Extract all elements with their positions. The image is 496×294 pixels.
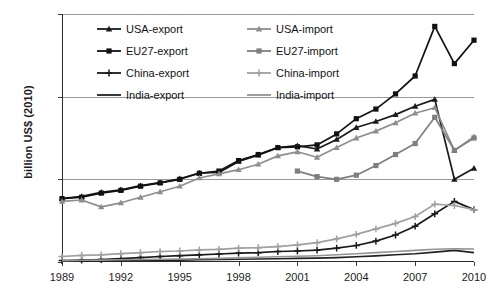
- data-point-marker: [176, 248, 183, 255]
- legend-item-china-export[interactable]: China-export: [96, 67, 246, 79]
- data-point-marker: [354, 116, 359, 121]
- legend-marker-cross-icon: [96, 67, 122, 79]
- legend-marker-line-icon: [96, 89, 122, 101]
- data-point-marker: [353, 242, 360, 249]
- data-point-marker: [334, 177, 339, 182]
- data-point-marker: [117, 250, 124, 257]
- data-point-marker: [314, 174, 319, 179]
- data-point-marker: [177, 177, 182, 182]
- data-point-marker: [314, 239, 321, 246]
- x-tick-mark-2010: [474, 262, 475, 266]
- data-point-marker: [256, 48, 261, 53]
- legend-item-usa-import[interactable]: USA-import: [246, 23, 416, 35]
- legend-label: EU27-export: [126, 45, 188, 57]
- legend-label: EU27-import: [276, 45, 338, 57]
- data-point-marker: [314, 142, 319, 147]
- x-tick-label-1998: 1998: [218, 271, 260, 283]
- data-point-marker: [118, 188, 123, 193]
- data-point-marker: [471, 165, 477, 171]
- legend-label: India-export: [126, 89, 184, 101]
- legend-marker-cross-icon: [246, 67, 272, 79]
- data-point-marker: [334, 131, 339, 136]
- x-tick-mark-2001: [297, 262, 298, 266]
- x-tick-label-2007: 2007: [394, 271, 436, 283]
- series-usa-import: [59, 104, 477, 209]
- series-line: [62, 201, 474, 260]
- x-tick-mark-2007: [415, 262, 416, 266]
- data-point-marker: [106, 48, 111, 53]
- legend-item-india-import[interactable]: India-import: [246, 89, 416, 101]
- data-point-marker: [471, 38, 476, 43]
- x-tick-mark-1998: [239, 262, 240, 266]
- data-point-marker: [106, 70, 113, 77]
- legend-marker-square-icon: [96, 45, 122, 57]
- data-point-marker: [471, 135, 476, 140]
- chart-root: billion US$ (2010) 0306090 1989199219951…: [0, 0, 496, 294]
- data-point-marker: [354, 173, 359, 178]
- chart-legend: USA-exportUSA-importEU27-exportEU27-impo…: [96, 18, 426, 106]
- legend-item-eu27-export[interactable]: EU27-export: [96, 45, 246, 57]
- series-line: [62, 204, 474, 256]
- x-tick-mark-1995: [180, 262, 181, 266]
- legend-label: China-import: [276, 67, 339, 79]
- data-point-marker: [157, 248, 164, 255]
- data-point-marker: [392, 232, 399, 239]
- legend-item-eu27-import[interactable]: EU27-import: [246, 45, 416, 57]
- legend-label: USA-import: [276, 23, 333, 35]
- x-tick-label-2010: 2010: [453, 271, 495, 283]
- data-point-marker: [373, 238, 380, 245]
- x-tick-mark-2004: [356, 262, 357, 266]
- x-tick-label-2001: 2001: [276, 271, 318, 283]
- data-point-marker: [333, 245, 340, 252]
- data-point-marker: [452, 61, 457, 66]
- legend-marker-square-icon: [246, 45, 272, 57]
- data-point-marker: [432, 96, 438, 102]
- data-point-marker: [432, 115, 437, 120]
- data-point-marker: [471, 206, 478, 213]
- data-point-marker: [392, 220, 399, 227]
- data-point-marker: [196, 246, 203, 253]
- data-point-marker: [256, 70, 263, 77]
- x-tick-mark-1992: [121, 262, 122, 266]
- data-point-marker: [333, 235, 340, 242]
- data-point-marker: [255, 244, 262, 251]
- data-point-marker: [78, 252, 85, 259]
- data-point-marker: [353, 231, 360, 238]
- data-point-marker: [295, 168, 300, 173]
- x-tick-label-2004: 2004: [335, 271, 377, 283]
- data-point-marker: [294, 248, 301, 255]
- legend-marker-triangle-icon: [96, 23, 122, 35]
- data-point-marker: [274, 243, 281, 250]
- data-point-marker: [59, 253, 66, 260]
- data-point-marker: [413, 141, 418, 146]
- legend-marker-triangle-icon: [246, 23, 272, 35]
- data-point-marker: [393, 152, 398, 157]
- data-point-marker: [157, 180, 162, 185]
- data-point-marker: [137, 249, 144, 256]
- data-point-marker: [373, 226, 380, 233]
- data-point-marker: [373, 106, 378, 111]
- x-tick-label-1989: 1989: [41, 271, 83, 283]
- data-point-marker: [236, 158, 241, 163]
- legend-item-india-export[interactable]: India-export: [96, 89, 246, 101]
- legend-marker-line-icon: [246, 89, 272, 101]
- data-point-marker: [373, 163, 378, 168]
- data-point-marker: [452, 148, 457, 153]
- data-point-marker: [235, 245, 242, 252]
- legend-item-usa-export[interactable]: USA-export: [96, 23, 246, 35]
- legend-item-china-import[interactable]: China-import: [246, 67, 416, 79]
- data-point-marker: [99, 191, 104, 196]
- legend-label: China-export: [126, 67, 189, 79]
- data-point-marker: [432, 24, 437, 29]
- y-axis-title: billion US$ (2010): [22, 52, 34, 212]
- x-tick-label-1995: 1995: [159, 271, 201, 283]
- x-tick-label-1992: 1992: [100, 271, 142, 283]
- data-point-marker: [216, 246, 223, 253]
- data-point-marker: [294, 242, 301, 249]
- data-point-marker: [138, 184, 143, 189]
- data-point-marker: [314, 247, 321, 254]
- data-point-marker: [275, 145, 280, 150]
- legend-label: India-import: [276, 89, 334, 101]
- series-eu27-import: [295, 115, 477, 182]
- data-point-marker: [256, 152, 261, 157]
